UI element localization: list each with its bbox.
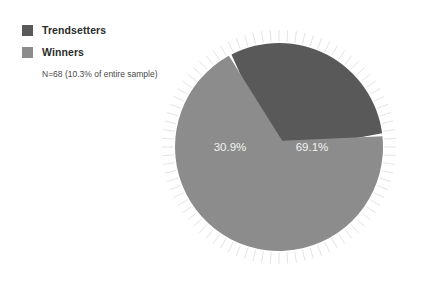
legend-label-winners: Winners xyxy=(42,46,84,58)
pie-chart-figure: Trendsetters Winners N=68 (10.3% of enti… xyxy=(0,0,421,284)
pie-slice-label-trendsetters: 30.9% xyxy=(214,141,247,153)
legend-label-trendsetters: Trendsetters xyxy=(42,24,106,36)
legend-swatch-trendsetters xyxy=(22,25,33,36)
chart-legend: Trendsetters Winners N=68 (10.3% of enti… xyxy=(22,24,172,80)
sample-size-annotation: N=68 (10.3% of entire sample) xyxy=(42,68,162,80)
legend-swatch-winners xyxy=(22,47,33,58)
legend-item-winners: Winners xyxy=(22,46,172,58)
legend-item-trendsetters: Trendsetters xyxy=(22,24,172,36)
pie-slice-label-winners: 69.1% xyxy=(296,141,329,153)
pie-graphic: 30.9% 69.1% xyxy=(160,18,405,273)
pie-svg: 30.9% 69.1% xyxy=(160,18,405,273)
